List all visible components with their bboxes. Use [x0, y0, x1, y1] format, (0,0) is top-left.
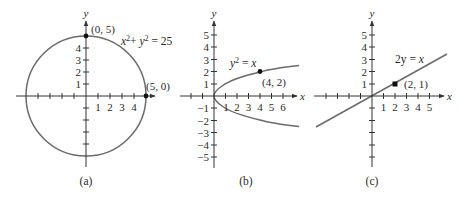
panel-b: 1 2 3 4 5 6 5 4 3 2 1 −1 −2 −3 −4 −5 y x…	[180, 7, 305, 188]
y-tick-label: 1	[362, 78, 368, 90]
y-tick-label: −4	[197, 139, 209, 151]
equation-label: y2 = x	[229, 56, 257, 70]
x-tick-label: 3	[404, 101, 410, 113]
y-tick-label: 3	[204, 54, 210, 66]
point-5-0	[144, 94, 149, 99]
x-tick-label: 6	[280, 101, 286, 113]
x-tick-label: 1	[223, 101, 229, 113]
panel-c: 1 2 3 4 5 5 4 3 2 1 y x (2, 1) 2y = x (c…	[314, 7, 452, 188]
point-label: (2, 1)	[404, 78, 428, 91]
panel-a: 1 2 3 4 1 2 3 4 y (0, 5) (5, 0) x2+ y2 =…	[16, 7, 173, 188]
x-tick-label: 4	[415, 101, 421, 113]
x-tick-label: 5	[269, 101, 275, 113]
x-tick-label: 3	[246, 101, 252, 113]
point-0-5	[84, 34, 89, 39]
x-tick-label: 3	[119, 101, 125, 113]
y-tick-label: 4	[204, 41, 210, 53]
x-tick-label: 2	[234, 101, 240, 113]
point-label: (5, 0)	[146, 80, 170, 93]
y-axis-label: y	[211, 7, 217, 19]
y-tick-label: 1	[204, 78, 210, 90]
y-tick-label: 3	[76, 54, 82, 66]
y-axis-label: y	[369, 7, 375, 19]
equation-label: 2y = x	[395, 53, 425, 66]
point-4-2	[258, 69, 263, 74]
figure: 1 2 3 4 1 2 3 4 y (0, 5) (5, 0) x2+ y2 =…	[0, 0, 461, 198]
point-label: (4, 2)	[262, 76, 286, 89]
y-tick-label: 2	[362, 66, 368, 78]
y-tick-label: −3	[197, 127, 209, 139]
caption-b: (b)	[239, 175, 253, 188]
y-tick-label: −1	[197, 102, 209, 114]
y-tick-label: 5	[362, 29, 368, 41]
x-tick-label: 1	[381, 101, 387, 113]
x-tick-label: 2	[107, 101, 113, 113]
y-tick-label: 3	[362, 54, 368, 66]
y-tick-label: 4	[76, 42, 82, 54]
caption-c: (c)	[366, 175, 379, 188]
y-tick-label: 4	[362, 41, 368, 53]
x-tick-label: 1	[95, 101, 101, 113]
line-curve	[316, 54, 447, 127]
y-tick-label: 2	[204, 66, 210, 78]
x-tick-label: 4	[131, 101, 137, 113]
caption-a: (a)	[80, 175, 93, 188]
point-2-1	[393, 82, 398, 87]
y-tick-label: 1	[76, 78, 82, 90]
x-tick-label: 5	[427, 101, 433, 113]
y-tick-label: −5	[197, 151, 209, 163]
y-tick-label: 5	[204, 29, 210, 41]
equation-label: x2+ y2 = 25	[120, 34, 173, 48]
x-tick-label: 4	[257, 101, 263, 113]
x-axis-label: x	[446, 90, 452, 102]
x-tick-label: 2	[392, 101, 398, 113]
y-tick-label: 2	[76, 66, 82, 78]
y-axis-label: y	[83, 7, 89, 19]
x-axis-label: x	[299, 90, 305, 102]
point-label: (0, 5)	[91, 23, 115, 36]
y-tick-label: −2	[197, 115, 209, 127]
